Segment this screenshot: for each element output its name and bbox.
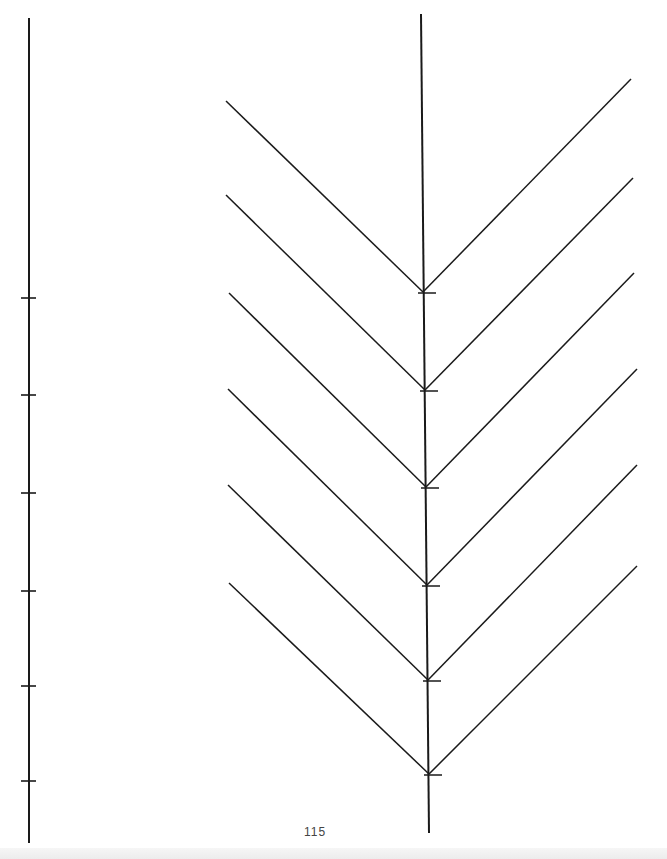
left-branch bbox=[229, 293, 426, 487]
left-scale-axis bbox=[21, 18, 36, 843]
left-branch bbox=[228, 485, 428, 680]
right-branch bbox=[428, 465, 637, 680]
right-branch bbox=[425, 178, 633, 390]
left-branch bbox=[226, 101, 423, 292]
branching-tree bbox=[226, 14, 637, 833]
right-branch bbox=[423, 79, 631, 292]
right-branch bbox=[427, 369, 637, 585]
herringbone-diagram bbox=[0, 0, 667, 859]
trunk-line bbox=[421, 14, 429, 833]
left-branch bbox=[228, 389, 427, 585]
right-branch bbox=[429, 566, 637, 774]
left-branch bbox=[226, 195, 425, 390]
page-number: 115 bbox=[300, 825, 330, 839]
right-branch bbox=[426, 273, 634, 487]
left-branch bbox=[229, 583, 429, 774]
page-bottom-edge bbox=[0, 848, 667, 859]
